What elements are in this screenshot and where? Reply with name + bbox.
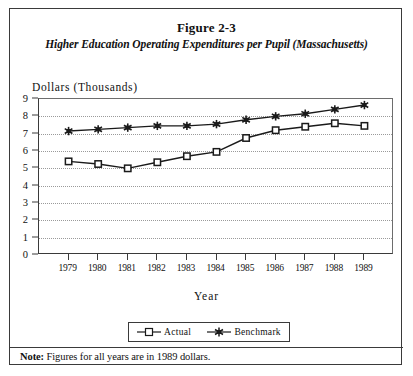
series-benchmark [65, 101, 368, 135]
plot-area [38, 98, 393, 254]
x-tick-mark [68, 254, 69, 260]
filled-star-icon [207, 326, 231, 338]
x-tick-label: 1986 [266, 263, 284, 273]
y-axis-title: Dollars (Thousands) [32, 81, 138, 93]
x-tick-label: 1980 [88, 263, 106, 273]
y-tick-label: 2 [23, 214, 28, 225]
x-tick-mark [97, 254, 98, 260]
figure-note: Note: Figures for all years are in 1989 … [20, 351, 210, 362]
figure-title: Figure 2-3 [10, 20, 403, 36]
y-axis-ticks: 0123456789 [10, 98, 38, 254]
y-tick-label: 8 [23, 110, 28, 121]
y-tick-label: 6 [23, 145, 28, 156]
data-point-marker [243, 135, 249, 141]
note-label: Note: [20, 351, 44, 362]
x-tick-label: 1982 [147, 263, 165, 273]
chart-series-svg [39, 99, 394, 255]
data-point-marker [361, 123, 367, 129]
y-tick-label: 1 [23, 231, 28, 242]
note-divider [10, 347, 403, 348]
data-point-marker [332, 120, 338, 126]
data-point-marker [125, 165, 131, 171]
y-tick-label: 5 [23, 162, 28, 173]
x-tick-label: 1983 [177, 263, 195, 273]
data-point-marker [213, 149, 219, 155]
legend-entry-benchmark: Benchmark [207, 326, 281, 338]
y-tick-label: 7 [23, 127, 28, 138]
x-tick-label: 1989 [354, 263, 372, 273]
x-tick-label: 1985 [236, 263, 254, 273]
x-tick-mark [127, 254, 128, 260]
legend-entry-actual: Actual [137, 326, 191, 338]
y-tick-label: 9 [23, 93, 28, 104]
figure-panel: Figure 2-3 Higher Education Operating Ex… [9, 8, 402, 365]
data-point-marker [154, 159, 160, 165]
data-point-marker [95, 161, 101, 167]
x-tick-mark [304, 254, 305, 260]
x-tick-mark [334, 254, 335, 260]
chart-legend: Actual Benchmark [128, 322, 290, 342]
note-body: Figures for all years are in 1989 dollar… [44, 351, 210, 362]
data-point-marker [65, 158, 71, 164]
x-tick-label: 1979 [58, 263, 76, 273]
x-tick-label: 1981 [118, 263, 136, 273]
data-point-marker [302, 124, 308, 130]
x-tick-label: 1987 [295, 263, 313, 273]
data-point-marker [272, 127, 278, 133]
x-tick-label: 1984 [206, 263, 224, 273]
figure-subtitle: Higher Education Operating Expenditures … [10, 38, 403, 50]
legend-label-actual: Actual [164, 327, 191, 337]
x-axis-ticks [38, 254, 393, 260]
x-axis-tick-labels: 1979198019811982198319841985198619871988… [38, 263, 393, 277]
x-axis-title: Year [10, 290, 403, 302]
x-tick-mark [216, 254, 217, 260]
x-tick-label: 1988 [325, 263, 343, 273]
x-tick-mark [275, 254, 276, 260]
y-tick-label: 4 [23, 179, 28, 190]
x-tick-mark [363, 254, 364, 260]
x-tick-mark [186, 254, 187, 260]
data-point-marker [184, 153, 190, 159]
x-tick-mark [156, 254, 157, 260]
open-square-icon [137, 326, 161, 338]
x-tick-mark [245, 254, 246, 260]
series-line [69, 123, 365, 168]
legend-label-benchmark: Benchmark [234, 327, 281, 337]
y-tick-label: 3 [23, 197, 28, 208]
y-tick-label: 0 [23, 249, 28, 260]
